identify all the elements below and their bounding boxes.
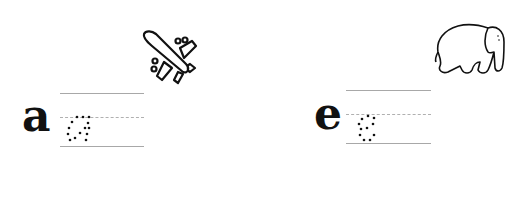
top-guide-line (60, 93, 144, 94)
base-guide-line (346, 143, 431, 144)
top-guide-line (346, 90, 431, 91)
dotted-trace-a[interactable] (64, 114, 94, 146)
base-guide-line (60, 146, 144, 147)
letter-a: a (22, 94, 51, 138)
airplane-icon (140, 28, 202, 90)
letter-e: e (314, 92, 342, 136)
dotted-trace-e[interactable] (356, 113, 380, 143)
elephant-icon (432, 22, 508, 80)
